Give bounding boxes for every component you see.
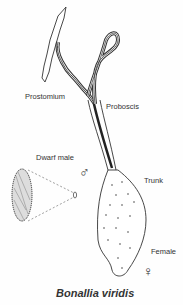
figure-caption: Bonallia viridis <box>56 287 134 299</box>
label-trunk: Trunk <box>144 176 163 185</box>
label-female: Female <box>151 247 176 256</box>
prostomium-shape <box>42 7 66 82</box>
dwarf-male-actual <box>73 192 76 198</box>
male-symbol-icon: ♂ <box>79 165 90 179</box>
diagram-drawing <box>0 0 183 305</box>
proboscis-loop <box>88 33 118 104</box>
label-proboscis: Proboscis <box>106 102 139 111</box>
dwarf-male-pointer-lines <box>28 170 74 221</box>
bonellia-diagram: Prostomium Proboscis Dwarf male Trunk Fe… <box>0 0 183 305</box>
trunk-shape <box>97 170 146 276</box>
label-dwarf-male: Dwarf male <box>36 153 74 162</box>
female-symbol-icon: ♀ <box>143 264 154 278</box>
label-prostomium: Prostomium <box>25 92 65 101</box>
